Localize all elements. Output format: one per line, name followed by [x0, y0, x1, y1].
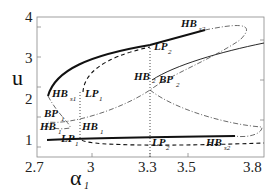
xtick-3.5: 3.5	[177, 159, 196, 175]
svg-text:HB: HB	[133, 70, 150, 82]
xtick-2.7: 2.7	[25, 159, 44, 175]
y-axis-label: u	[12, 65, 23, 90]
ytick-2: 2	[25, 91, 33, 107]
ytick-4: 4	[25, 9, 33, 25]
svg-text:HB: HB	[51, 87, 68, 99]
xtick-3.3: 3.3	[138, 159, 157, 175]
ytick-1: 1	[25, 132, 33, 148]
svg-text:LP: LP	[153, 40, 168, 52]
svg-text:1: 1	[75, 140, 79, 148]
svg-text:2: 2	[152, 77, 156, 85]
periodic-orbit-lower	[150, 90, 262, 137]
xtick-3.8: 3.8	[243, 159, 262, 175]
svg-text:2: 2	[168, 48, 172, 56]
svg-text:HB: HB	[180, 17, 197, 29]
upper-stable-branch	[48, 30, 205, 96]
svg-text:s2: s2	[224, 144, 231, 152]
svg-text:1: 1	[99, 95, 103, 103]
svg-text:2: 2	[176, 81, 180, 89]
svg-text:s1: s1	[70, 95, 76, 103]
x-axis-label: α	[70, 165, 82, 190]
svg-text:HB: HB	[205, 136, 222, 148]
svg-text:LP: LP	[60, 132, 75, 144]
svg-text:LP: LP	[151, 136, 166, 148]
svg-text:HB: HB	[39, 120, 56, 132]
svg-text:s2: s2	[199, 25, 206, 33]
lower-unstable-branch	[82, 140, 264, 145]
svg-text:BP: BP	[43, 107, 58, 119]
bifurcation-diagram: 4 3 2 1 u 2.7 3 3.3 3.5 3.8 α 1 HBs2 LP2…	[0, 0, 267, 190]
svg-text:BP: BP	[158, 73, 173, 85]
svg-text:1: 1	[61, 115, 65, 123]
annotations: HBs2 LP2 HB2 BP2 HBs1 LP1 BP1 HB1 HB1 LP…	[39, 17, 231, 152]
x-axis-label-sub: 1	[84, 180, 89, 190]
svg-text:HB: HB	[81, 120, 98, 132]
ytick-3: 3	[25, 50, 33, 66]
svg-text:LP: LP	[84, 87, 99, 99]
svg-text:1: 1	[100, 128, 104, 136]
xtick-3: 3	[87, 159, 95, 175]
svg-text:2: 2	[166, 144, 170, 152]
